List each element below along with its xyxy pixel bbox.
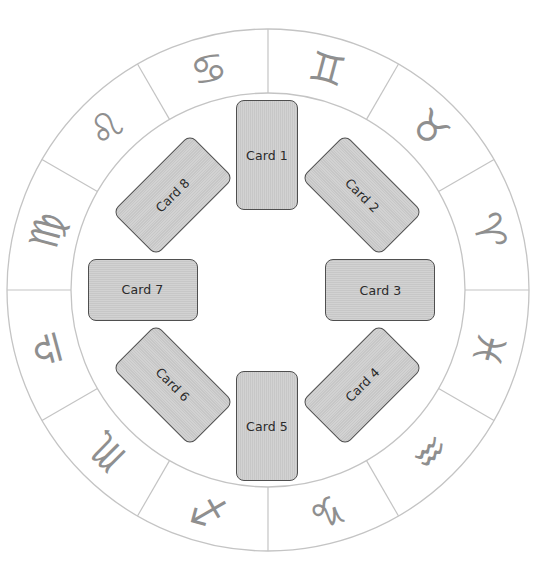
card-label: Card 2 bbox=[342, 175, 382, 215]
card-1: Card 1 bbox=[236, 100, 298, 210]
card-label: Card 6 bbox=[153, 365, 193, 405]
card-label: Card 5 bbox=[246, 419, 288, 434]
sagittarius-icon: ♐︎ bbox=[185, 484, 232, 538]
sector-divider bbox=[439, 389, 494, 421]
gemini-icon: ♊︎ bbox=[304, 42, 351, 96]
card-3: Card 3 bbox=[325, 259, 435, 321]
card-label: Card 8 bbox=[153, 175, 193, 215]
sector-divider bbox=[439, 160, 494, 192]
aries-icon: ♈︎ bbox=[462, 207, 516, 254]
sector-divider bbox=[42, 389, 97, 421]
leo-icon: ♌︎ bbox=[77, 99, 135, 157]
card-label: Card 3 bbox=[359, 283, 401, 298]
card-7: Card 7 bbox=[88, 259, 198, 321]
cancer-icon: ♋︎ bbox=[185, 42, 232, 96]
libra-icon: ♎︎ bbox=[20, 326, 74, 373]
sector-divider bbox=[367, 64, 399, 119]
scorpio-icon: ♏︎ bbox=[77, 423, 135, 481]
sector-divider bbox=[138, 64, 170, 119]
pisces-icon: ♓︎ bbox=[462, 326, 516, 373]
virgo-icon: ♍︎ bbox=[20, 207, 74, 254]
aquarius-icon: ♒︎ bbox=[401, 423, 459, 481]
card-label: Card 1 bbox=[246, 148, 288, 163]
card-label: Card 4 bbox=[342, 365, 382, 405]
sector-divider bbox=[138, 461, 170, 516]
sector-divider bbox=[367, 461, 399, 516]
card-5: Card 5 bbox=[236, 371, 298, 481]
card-label: Card 7 bbox=[122, 283, 164, 298]
taurus-icon: ♉︎ bbox=[401, 99, 459, 157]
sector-divider bbox=[42, 160, 97, 192]
capricorn-icon: ♑︎ bbox=[304, 484, 351, 538]
